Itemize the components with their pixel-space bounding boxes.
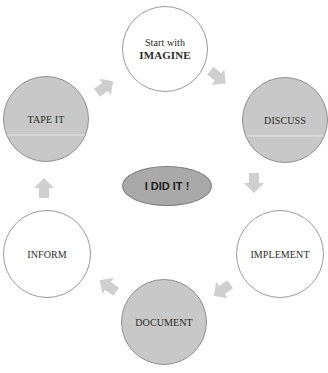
arrow-down-icon: [243, 172, 265, 194]
node-imagine: Start with IMAGINE: [122, 6, 208, 92]
arrow-down-left-icon: [207, 275, 238, 306]
node-implement-label: IMPLEMENT: [250, 249, 309, 260]
node-discuss: DISCUSS: [242, 77, 328, 163]
arrow-down-right-icon: [203, 62, 234, 93]
node-imagine-line2: IMAGINE: [139, 49, 190, 62]
arrow-up-right-icon: [90, 72, 121, 103]
center-ellipse: I DID IT !: [122, 166, 212, 206]
node-implement: IMPLEMENT: [236, 210, 324, 298]
node-inform: INFORM: [3, 210, 91, 298]
node-discuss-label: DISCUSS: [264, 115, 306, 126]
node-inform-label: INFORM: [27, 249, 67, 260]
center-label: I DID IT !: [145, 180, 190, 192]
node-imagine-line1: Start with: [145, 36, 185, 49]
node-document-label: DOCUMENT: [135, 317, 192, 328]
arrow-up-icon: [33, 177, 55, 199]
node-document: DOCUMENT: [121, 279, 207, 365]
node-tape-it-label: TAPE IT: [28, 114, 65, 125]
node-tape-it: TAPE IT: [3, 76, 89, 162]
arrow-up-left-icon: [93, 271, 124, 302]
